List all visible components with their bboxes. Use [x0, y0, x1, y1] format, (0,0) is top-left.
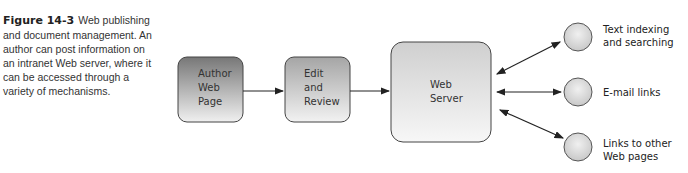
diagram-canvas — [0, 0, 688, 173]
circle-text-indexing — [564, 23, 592, 51]
output-0-line1: Text indexing — [603, 23, 674, 36]
author-line1: Author — [198, 67, 232, 81]
author-line2: Web — [198, 81, 232, 95]
output-2-line2: Web pages — [603, 150, 672, 163]
output-1-line1: E-mail links — [603, 86, 660, 99]
output-label-links: Links to other Web pages — [603, 137, 672, 163]
author-label: Author Web Page — [198, 67, 232, 109]
arrow-server-text-indexing — [497, 42, 560, 74]
server-line1: Web — [430, 78, 463, 92]
edit-line2: and — [304, 81, 340, 95]
output-2-line1: Links to other — [603, 137, 672, 150]
edit-label: Edit and Review — [304, 67, 340, 109]
output-label-text-indexing: Text indexing and searching — [603, 23, 674, 49]
edit-line3: Review — [304, 95, 340, 109]
server-line2: Server — [430, 92, 463, 106]
output-label-email: E-mail links — [603, 86, 660, 99]
edit-line1: Edit — [304, 67, 340, 81]
server-label: Web Server — [430, 78, 463, 106]
circle-links-other — [564, 133, 592, 161]
author-line3: Page — [198, 95, 232, 109]
output-0-line2: and searching — [603, 36, 674, 49]
circle-email-links — [564, 78, 592, 106]
arrow-server-links — [500, 110, 563, 138]
